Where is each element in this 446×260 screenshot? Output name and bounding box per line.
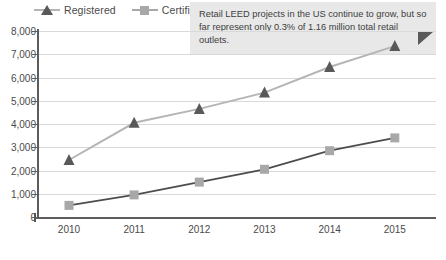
data-point-certified-2010[interactable] <box>65 201 74 210</box>
data-point-certified-2013[interactable] <box>260 165 269 174</box>
series-line-certified <box>69 138 395 206</box>
line-chart: Registered Certified Retail LEED project… <box>0 0 446 260</box>
data-point-certified-2011[interactable] <box>130 190 139 199</box>
data-point-certified-2015[interactable] <box>390 133 399 142</box>
series-layer <box>0 0 446 260</box>
data-point-certified-2014[interactable] <box>325 146 334 155</box>
data-point-registered-2010[interactable] <box>64 154 75 165</box>
data-point-registered-2015[interactable] <box>389 40 400 51</box>
series-line-registered <box>69 46 395 160</box>
data-point-certified-2012[interactable] <box>195 178 204 187</box>
